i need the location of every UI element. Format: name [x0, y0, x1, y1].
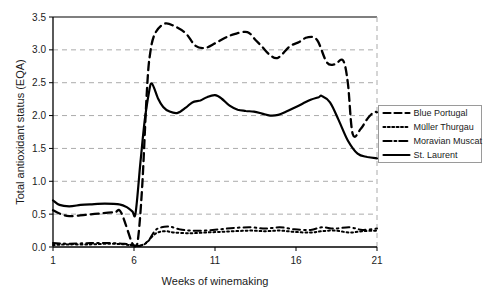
legend-label-blue-portugal: Blue Portugal — [414, 108, 468, 118]
legend-label-m-ller-thurgau: Müller Thurgau — [414, 122, 474, 132]
x-tick-label: 6 — [131, 255, 137, 266]
y-tick-label: 3.5 — [32, 12, 46, 23]
series-layer — [53, 23, 377, 246]
series-line-blue-portugal — [53, 23, 377, 246]
y-tick-label: 1.0 — [32, 176, 46, 187]
y-tick-label: 1.5 — [32, 143, 46, 154]
y-tick-label: 0.0 — [32, 242, 46, 253]
x-tick-label: 21 — [371, 255, 383, 266]
y-axis-title: Total antioxidant status (EQA) — [14, 59, 26, 205]
line-chart-canvas: 0.00.51.01.52.02.53.03.516111621 Total a… — [0, 0, 500, 301]
grid-layer — [53, 17, 377, 247]
x-tick-label: 16 — [290, 255, 302, 266]
legend: Blue PortugalMüller ThurgauMoravian Musc… — [379, 106, 483, 163]
y-tick-label: 2.0 — [32, 110, 46, 121]
antioxidant-line-chart: 0.00.51.01.52.02.53.03.516111621 Total a… — [0, 0, 500, 301]
legend-label-st-laurent: St. Laurent — [414, 150, 459, 160]
x-tick-label: 11 — [210, 255, 221, 266]
x-axis-title: Weeks of winemaking — [162, 275, 269, 287]
y-tick-label: 2.5 — [32, 77, 46, 88]
series-line-moravian-muscat — [53, 226, 377, 246]
series-line-m-ller-thurgau — [53, 231, 377, 246]
legend-label-moravian-muscat: Moravian Muscat — [414, 136, 483, 146]
y-tick-label: 0.5 — [32, 209, 46, 220]
y-tick-label: 3.0 — [32, 44, 46, 55]
series-line-st-laurent — [53, 83, 377, 216]
x-tick-label: 1 — [50, 255, 56, 266]
